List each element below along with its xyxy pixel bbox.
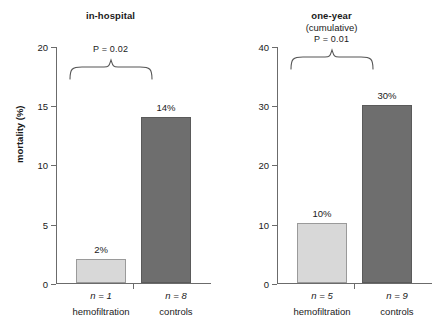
y-axis-label: mortality (%)	[14, 105, 25, 163]
y-tick-label-5: 5	[43, 220, 48, 231]
panel-subtitle-one-year: (cumulative)	[221, 22, 442, 33]
bar-value-label-hemofiltration-one-year: 10%	[297, 208, 347, 219]
x-category-n-label: n = 8	[131, 290, 221, 301]
figure-mortality-bar-charts: in-hospital P = 0.02 mortality (%) 20 15…	[0, 0, 443, 327]
bar-value-label-controls-in-hospital: 14%	[141, 102, 191, 113]
y-axis-line	[277, 47, 278, 284]
plot-area-in-hospital: 20 15 10 5 0 2% 14% n = 1 hemofiltration	[56, 47, 211, 284]
y-axis-line	[56, 47, 57, 284]
bar-controls-one-year[interactable]	[362, 105, 412, 283]
panel-title-in-hospital: in-hospital	[0, 10, 221, 21]
y-tick-label-20: 20	[37, 42, 48, 53]
x-category-group-label: controls	[131, 306, 221, 317]
y-tick-label-0: 0	[43, 279, 48, 290]
y-tick-10	[272, 225, 277, 226]
y-tick-5	[51, 225, 56, 226]
bar-hemofiltration-in-hospital[interactable]	[76, 259, 126, 283]
y-tick-label-30: 30	[258, 101, 269, 112]
bar-hemofiltration-one-year[interactable]	[297, 223, 347, 283]
bar-controls-in-hospital[interactable]	[141, 117, 191, 283]
y-tick-30	[272, 106, 277, 107]
y-tick-label-10: 10	[37, 160, 48, 171]
y-tick-0	[51, 284, 56, 285]
panel-one-year: one-year (cumulative) P = 0.01 40 30 20 …	[221, 0, 442, 327]
x-tick-separator	[354, 284, 355, 289]
y-tick-15	[51, 106, 56, 107]
x-category-controls-one-year: n = 9 controls	[352, 290, 442, 317]
y-tick-20	[272, 165, 277, 166]
y-tick-10	[51, 165, 56, 166]
x-tick-separator	[133, 284, 134, 289]
plot-area-one-year: 40 30 20 10 0 10% 30% n = 5 hemofiltrati…	[277, 47, 432, 284]
y-tick-label-40: 40	[258, 42, 269, 53]
y-tick-0	[272, 284, 277, 285]
panel-title-one-year: one-year	[221, 10, 442, 21]
y-tick-label-20: 20	[258, 160, 269, 171]
x-category-group-label: controls	[352, 306, 442, 317]
y-tick-20	[51, 47, 56, 48]
y-tick-label-0: 0	[264, 279, 269, 290]
bar-value-label-hemofiltration-in-hospital: 2%	[76, 244, 126, 255]
bar-value-label-controls-one-year: 30%	[362, 90, 412, 101]
y-tick-label-10: 10	[258, 220, 269, 231]
x-category-controls-in-hospital: n = 8 controls	[131, 290, 221, 317]
y-tick-label-15: 15	[37, 101, 48, 112]
y-tick-40	[272, 47, 277, 48]
panel-in-hospital: in-hospital P = 0.02 mortality (%) 20 15…	[0, 0, 221, 327]
pvalue-annotation-one-year: P = 0.01	[221, 34, 442, 44]
x-category-n-label: n = 9	[352, 290, 442, 301]
